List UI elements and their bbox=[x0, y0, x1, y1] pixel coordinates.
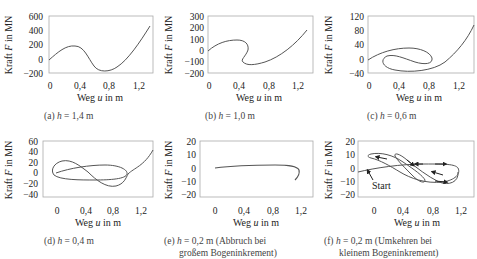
x-ticks: 0 0,4 0,8 1,2 bbox=[213, 206, 308, 216]
svg-text:600: 600 bbox=[29, 12, 44, 22]
y-ticks: 20 10 0 −10 −20 bbox=[181, 137, 196, 200]
y-axis-label: Kraft F in MN bbox=[163, 141, 174, 200]
svg-text:1,2: 1,2 bbox=[133, 81, 145, 91]
y-ticks: 120 80 40 0 −40 bbox=[349, 12, 364, 79]
y-ticks: 60 40 20 0 −20 −40 bbox=[23, 137, 38, 200]
x-axis-label: Weg u in m bbox=[77, 92, 123, 103]
panel-c: Kraft F in MN 120 80 40 0 −40 0 0,4 0,8 … bbox=[315, 0, 477, 130]
y-axis-label: Kraft F in MN bbox=[3, 16, 14, 75]
x-axis-label: Weg u in m bbox=[236, 92, 282, 103]
svg-text:0: 0 bbox=[207, 81, 212, 91]
svg-text:0: 0 bbox=[48, 81, 53, 91]
caption-d: (d) h = 0,4 m bbox=[44, 235, 94, 247]
svg-text:0,8: 0,8 bbox=[267, 206, 279, 216]
svg-text:−10: −10 bbox=[340, 177, 355, 187]
svg-text:0,8: 0,8 bbox=[263, 81, 275, 91]
svg-text:1,2: 1,2 bbox=[455, 206, 467, 216]
svg-text:0,4: 0,4 bbox=[397, 206, 409, 216]
svg-text:0: 0 bbox=[199, 46, 204, 56]
svg-text:0,4: 0,4 bbox=[80, 206, 92, 216]
svg-text:1,2: 1,2 bbox=[295, 206, 307, 216]
svg-text:−40: −40 bbox=[349, 69, 364, 79]
y-axis-label: Kraft F in MN bbox=[323, 141, 334, 200]
x-ticks: 0 0,4 0,8 1,2 bbox=[48, 81, 146, 91]
svg-text:20: 20 bbox=[346, 137, 356, 147]
svg-text:Kraft F in MN: Kraft F in MN bbox=[323, 16, 334, 75]
svg-text:Kraft F in MN: Kraft F in MN bbox=[3, 16, 14, 75]
panel-b: Kraft F in MN 300 200 100 0 −100 −200 0 … bbox=[155, 0, 315, 130]
x-axis-label: Weg u in m bbox=[233, 217, 279, 228]
y-axis-label: Kraft F in MN bbox=[323, 16, 334, 75]
caption-b: (b) h = 1,0 m bbox=[205, 110, 255, 122]
svg-text:20: 20 bbox=[187, 137, 197, 147]
plot-frame bbox=[208, 16, 313, 73]
svg-text:10: 10 bbox=[187, 150, 197, 160]
y-ticks: 20 10 0 −10 −20 bbox=[340, 137, 355, 200]
svg-text:0,4: 0,4 bbox=[393, 81, 405, 91]
svg-text:120: 120 bbox=[350, 12, 365, 22]
svg-text:40: 40 bbox=[355, 40, 365, 50]
panel-e: Kraft F in MN 20 10 0 −10 −20 0 0,4 0,8 … bbox=[155, 130, 315, 259]
svg-text:0,8: 0,8 bbox=[103, 81, 115, 91]
x-ticks: 0 0,4 0,8 1,2 bbox=[207, 81, 305, 91]
svg-text:0: 0 bbox=[33, 168, 38, 178]
curve bbox=[358, 153, 459, 183]
curve bbox=[368, 25, 474, 71]
svg-text:Kraft F in MN: Kraft F in MN bbox=[163, 141, 174, 200]
svg-text:−20: −20 bbox=[340, 190, 355, 200]
x-axis-label: Weg u in m bbox=[394, 217, 440, 228]
svg-text:0: 0 bbox=[191, 164, 196, 174]
svg-text:0,4: 0,4 bbox=[74, 81, 86, 91]
svg-text:0: 0 bbox=[367, 81, 372, 91]
svg-text:Kraft F in MN: Kraft F in MN bbox=[3, 141, 14, 200]
svg-text:0,8: 0,8 bbox=[427, 206, 439, 216]
y-ticks: 300 200 100 0 −100 −200 bbox=[184, 12, 204, 79]
svg-text:−200: −200 bbox=[23, 69, 43, 79]
caption-c: (c) h = 0,6 m bbox=[367, 110, 416, 122]
svg-text:300: 300 bbox=[190, 12, 205, 22]
svg-text:1,2: 1,2 bbox=[292, 81, 304, 91]
svg-text:0: 0 bbox=[359, 55, 364, 65]
svg-text:1,2: 1,2 bbox=[453, 81, 465, 91]
svg-text:0: 0 bbox=[55, 206, 60, 216]
caption-f: (f) h = 0,2 m (Umkehren bei kleinem Boge… bbox=[324, 235, 438, 259]
svg-text:0,4: 0,4 bbox=[238, 206, 250, 216]
svg-text:100: 100 bbox=[190, 35, 205, 45]
y-axis-label: Kraft F in MN bbox=[163, 16, 174, 75]
svg-text:Kraft F in MN: Kraft F in MN bbox=[323, 141, 334, 200]
svg-text:−200: −200 bbox=[184, 69, 204, 79]
x-ticks: 0 0,4 0,8 1,2 bbox=[372, 206, 468, 216]
svg-text:0,8: 0,8 bbox=[423, 81, 435, 91]
svg-text:0: 0 bbox=[38, 55, 43, 65]
panel-a: Kraft F in MN 600 400 200 0 −200 0 0,4 0… bbox=[0, 0, 160, 130]
svg-text:1,2: 1,2 bbox=[135, 206, 147, 216]
svg-text:−10: −10 bbox=[181, 177, 196, 187]
svg-text:−20: −20 bbox=[23, 179, 38, 189]
y-axis-label: Kraft F in MN bbox=[3, 141, 14, 200]
svg-text:−40: −40 bbox=[23, 190, 38, 200]
plot-frame bbox=[200, 141, 313, 197]
x-ticks: 0 0,4 0,8 1,2 bbox=[367, 81, 466, 91]
svg-text:0,4: 0,4 bbox=[233, 81, 245, 91]
svg-text:0: 0 bbox=[372, 206, 377, 216]
x-axis-label: Weg u in m bbox=[75, 217, 121, 228]
x-ticks: 0 0,4 0,8 1,2 bbox=[55, 206, 148, 216]
svg-text:0: 0 bbox=[213, 206, 218, 216]
y-ticks: 600 400 200 0 −200 bbox=[23, 12, 43, 79]
panel-d: Kraft F in MN 60 40 20 0 −20 −40 0 0,4 0… bbox=[0, 130, 160, 259]
curve bbox=[208, 30, 307, 65]
svg-text:Kraft F in MN: Kraft F in MN bbox=[163, 16, 174, 75]
svg-text:80: 80 bbox=[355, 26, 365, 36]
svg-text:200: 200 bbox=[190, 23, 205, 33]
svg-text:−100: −100 bbox=[184, 57, 204, 67]
start-annotation: Start bbox=[372, 180, 391, 191]
curve bbox=[215, 165, 299, 180]
plot-frame bbox=[43, 141, 153, 197]
x-axis-label: Weg u in m bbox=[396, 92, 442, 103]
curve bbox=[52, 150, 153, 186]
svg-text:200: 200 bbox=[29, 40, 44, 50]
panel-f: Kraft F in MN 20 10 0 −10 −20 Start 0 0,… bbox=[315, 130, 477, 259]
svg-text:−20: −20 bbox=[181, 190, 196, 200]
svg-text:60: 60 bbox=[29, 137, 39, 147]
svg-text:20: 20 bbox=[29, 158, 39, 168]
